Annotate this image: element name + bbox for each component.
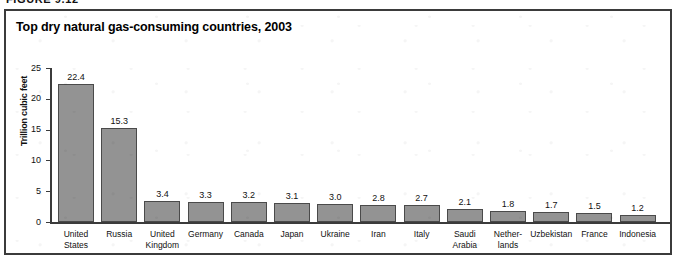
y-tick-label: 15 <box>19 125 41 134</box>
x-category-line: Canada <box>234 229 264 239</box>
bar-value-label: 1.7 <box>533 200 569 210</box>
figure-box: Top dry natural gas-consuming countries,… <box>4 9 672 255</box>
bar-value-label: 22.4 <box>58 72 94 82</box>
bar-value-label: 3.3 <box>188 190 224 200</box>
bar-value-label: 15.3 <box>101 116 137 126</box>
bar <box>447 209 483 222</box>
bar-value-label: 3.0 <box>317 192 353 202</box>
x-category-line: Ukraine <box>321 229 350 239</box>
y-axis-title: Trillion cubic feet <box>19 61 29 161</box>
x-category-line: France <box>581 229 607 239</box>
y-tick-label: 0 <box>19 218 41 227</box>
bar-value-label: 1.5 <box>576 201 612 211</box>
x-category-line: Russia <box>106 229 132 239</box>
x-category-line: United <box>64 229 89 239</box>
x-category-label: Japan <box>269 229 315 240</box>
bar <box>490 211 526 222</box>
bar-value-label: 1.2 <box>620 203 656 213</box>
x-category-line: Saudi <box>454 229 476 239</box>
y-tick-mark <box>46 130 50 131</box>
x-category-label: Ukraine <box>312 229 358 240</box>
y-tick-label: 10 <box>19 156 41 165</box>
bar <box>533 212 569 222</box>
y-tick-label: 5 <box>19 187 41 196</box>
y-tick-mark <box>46 191 50 192</box>
bar <box>360 205 396 222</box>
x-category-label: France <box>571 229 617 240</box>
x-category-line: Japan <box>280 229 303 239</box>
y-tick-mark <box>46 222 50 223</box>
x-category-line: Kingdom <box>146 240 180 250</box>
x-category-line: States <box>64 240 88 250</box>
bar <box>144 201 180 222</box>
x-category-label: Italy <box>399 229 445 240</box>
y-tick-mark <box>46 160 50 161</box>
x-category-line: Germany <box>188 229 223 239</box>
x-category-label: Russia <box>96 229 142 240</box>
x-category-line: Nether- <box>494 229 522 239</box>
bar-value-label: 2.8 <box>360 193 396 203</box>
y-axis-line <box>50 68 52 222</box>
x-category-label: Iran <box>355 229 401 240</box>
x-category-line: lands <box>498 240 518 250</box>
bar <box>620 215 656 222</box>
x-category-label: Germany <box>183 229 229 240</box>
x-category-line: Arabia <box>453 240 478 250</box>
bar <box>576 213 612 222</box>
x-axis-line <box>50 222 670 224</box>
x-category-label: Nether-lands <box>485 229 531 250</box>
bar <box>404 205 440 222</box>
x-category-label: UnitedStates <box>53 229 99 250</box>
bar-value-label: 3.1 <box>274 191 310 201</box>
bar <box>188 202 224 222</box>
bar-value-label: 2.1 <box>447 197 483 207</box>
bar-value-label: 1.8 <box>490 199 526 209</box>
y-tick-mark <box>46 68 50 69</box>
x-category-label: Uzbekistan <box>528 229 574 240</box>
x-category-line: Iran <box>371 229 386 239</box>
bar <box>58 84 94 222</box>
bar <box>101 128 137 222</box>
figure-label: FIGURE 9.12 <box>6 0 79 5</box>
bar-value-label: 2.7 <box>404 193 440 203</box>
bar-value-label: 3.4 <box>144 189 180 199</box>
bar <box>317 204 353 222</box>
x-category-line: Uzbekistan <box>530 229 572 239</box>
x-category-label: Indonesia <box>615 229 661 240</box>
y-tick-mark <box>46 99 50 100</box>
x-category-label: Canada <box>226 229 272 240</box>
y-tick-label: 25 <box>19 64 41 73</box>
bar-value-label: 3.2 <box>231 190 267 200</box>
y-tick-label: 20 <box>19 94 41 103</box>
x-category-label: SaudiArabia <box>442 229 488 250</box>
bar <box>274 203 310 222</box>
x-category-line: Italy <box>414 229 430 239</box>
bar <box>231 202 267 222</box>
plot-area: Trillion cubic feet 0510152025 22.415.33… <box>6 11 674 257</box>
x-category-line: United <box>150 229 175 239</box>
x-category-label: UnitedKingdom <box>139 229 185 250</box>
x-category-line: Indonesia <box>619 229 656 239</box>
